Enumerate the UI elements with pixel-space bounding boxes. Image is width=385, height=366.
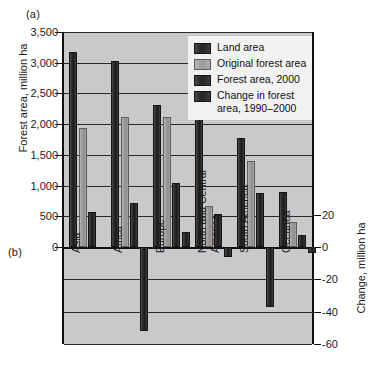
bar xyxy=(266,247,274,307)
category-label: South America xyxy=(238,185,250,253)
bar xyxy=(140,247,148,331)
forest-area-chart-figure: (a) (b) 3,5003,0002,5002,0001,5001,00050… xyxy=(0,0,385,366)
right-tick-mark xyxy=(314,312,321,313)
bar-group xyxy=(64,32,106,344)
chart-legend: Land areaOriginal forest areaForest area… xyxy=(188,36,312,120)
left-tick-mark xyxy=(55,63,62,64)
legend-item: Forest area, 2000 xyxy=(194,73,307,86)
left-tick-label: 500 xyxy=(14,210,58,222)
legend-swatch xyxy=(194,75,211,86)
left-tick-mark xyxy=(55,247,62,248)
bar xyxy=(88,212,96,247)
right-tick-mark xyxy=(314,344,321,345)
right-tick-label: 0 xyxy=(322,241,356,253)
left-tick-mark xyxy=(55,186,62,187)
bar xyxy=(69,52,77,247)
left-axis-title: Forest area, million ha xyxy=(17,18,29,178)
bar-group xyxy=(106,32,148,344)
category-label: North and Central xyxy=(196,170,208,253)
bar xyxy=(298,235,306,247)
bar xyxy=(256,193,264,247)
bar xyxy=(182,232,190,247)
category-label: Oceanea xyxy=(280,210,292,253)
left-tick-mark xyxy=(55,216,62,217)
bar xyxy=(172,183,180,247)
right-tick-mark xyxy=(314,215,321,216)
left-tick-label: 1,000 xyxy=(14,180,58,192)
left-tick-mark xyxy=(55,155,62,156)
legend-label: Original forest area xyxy=(217,57,306,70)
bar-group xyxy=(148,32,190,344)
left-tick-label: 0 xyxy=(14,241,58,253)
right-tick-mark xyxy=(314,247,321,248)
right-axis-title: Change, million ha xyxy=(355,203,367,333)
bar xyxy=(130,203,138,247)
right-tick-label: -60 xyxy=(322,338,356,350)
right-tick-label: 20 xyxy=(322,209,356,221)
right-tick-mark xyxy=(314,279,321,280)
bar xyxy=(224,247,232,257)
legend-swatch xyxy=(194,43,211,54)
legend-item: Change in forestarea, 1990–2000 xyxy=(194,89,307,114)
legend-item: Land area xyxy=(194,41,307,54)
left-tick-mark xyxy=(55,124,62,125)
right-tick-label: -40 xyxy=(322,306,356,318)
category-label: Europe xyxy=(154,219,166,253)
category-label: America xyxy=(209,214,221,253)
left-tick-mark xyxy=(55,32,62,33)
bar xyxy=(79,128,87,247)
category-label: Africa xyxy=(112,226,124,253)
legend-swatch xyxy=(194,59,211,70)
legend-label: Forest area, 2000 xyxy=(217,73,300,86)
legend-label: Change in forestarea, 1990–2000 xyxy=(217,89,296,114)
bar xyxy=(98,247,106,249)
left-tick-mark xyxy=(55,93,62,94)
legend-label: Land area xyxy=(217,41,264,54)
bar xyxy=(111,61,119,247)
gridline xyxy=(64,344,312,345)
legend-item: Original forest area xyxy=(194,57,307,70)
category-label: Asia xyxy=(70,233,82,253)
right-tick-label: -20 xyxy=(322,273,356,285)
legend-swatch xyxy=(194,91,211,102)
